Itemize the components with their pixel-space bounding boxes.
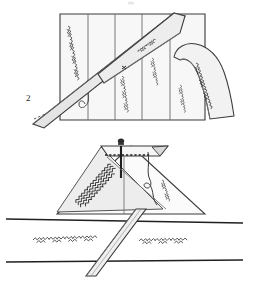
figure-number-label: 2 bbox=[26, 93, 31, 103]
sewing-instruction-figure: 2 bbox=[0, 0, 262, 286]
plate-top-speck bbox=[128, 2, 135, 5]
pin-head bbox=[118, 138, 124, 143]
illustration-canvas: 2 bbox=[0, 0, 262, 286]
